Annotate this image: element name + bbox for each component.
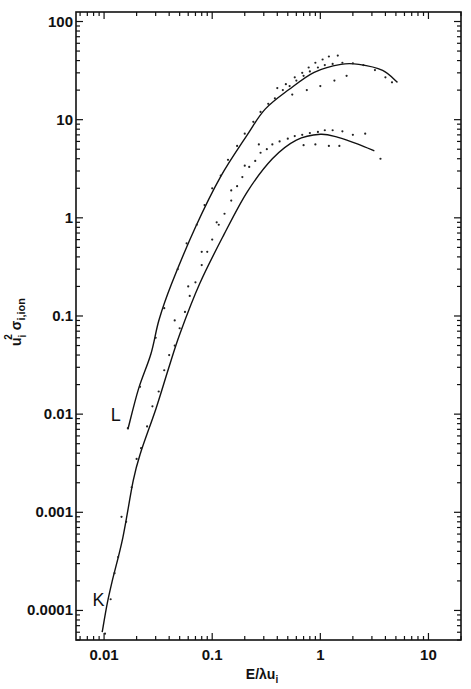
data-point bbox=[227, 159, 229, 161]
data-point bbox=[187, 285, 189, 287]
y-axis: 1001010.10.010.0010.0001 bbox=[27, 13, 461, 640]
x-tick-label: 1 bbox=[316, 646, 324, 663]
data-point bbox=[341, 62, 343, 64]
data-point bbox=[314, 62, 316, 64]
curve-label-l: L bbox=[111, 405, 121, 425]
data-point bbox=[163, 369, 165, 371]
data-point bbox=[236, 185, 238, 187]
series-l: L bbox=[111, 54, 398, 429]
data-point bbox=[346, 75, 348, 77]
data-point bbox=[285, 83, 287, 85]
data-point bbox=[230, 189, 232, 191]
data-point bbox=[391, 81, 393, 83]
data-point bbox=[211, 239, 213, 241]
data-point bbox=[271, 143, 273, 145]
data-point bbox=[306, 89, 308, 91]
data-point bbox=[282, 89, 284, 91]
data-point bbox=[308, 66, 310, 68]
data-point bbox=[139, 386, 141, 388]
data-point bbox=[211, 187, 213, 189]
data-point bbox=[295, 80, 297, 82]
data-point bbox=[362, 64, 364, 66]
data-point bbox=[155, 337, 157, 339]
x-axis: 0.010.1110 bbox=[80, 12, 461, 663]
y-tick-label: 0.1 bbox=[52, 307, 73, 324]
data-point bbox=[146, 425, 148, 427]
data-point bbox=[319, 85, 321, 87]
data-point bbox=[196, 224, 198, 226]
data-point bbox=[104, 633, 106, 635]
data-point bbox=[201, 264, 203, 266]
data-point bbox=[278, 140, 280, 142]
data-point bbox=[328, 145, 330, 147]
data-point bbox=[374, 69, 376, 71]
data-point bbox=[241, 176, 243, 178]
data-point bbox=[379, 158, 381, 160]
data-point bbox=[218, 224, 220, 226]
series-layer: LK bbox=[92, 54, 397, 634]
data-point bbox=[337, 54, 339, 56]
data-point bbox=[317, 131, 319, 133]
y-tick-label: 100 bbox=[48, 13, 73, 30]
data-point bbox=[223, 213, 225, 215]
y-tick-label: 0.001 bbox=[35, 503, 73, 520]
series-k: K bbox=[92, 129, 381, 635]
data-point bbox=[341, 130, 343, 132]
data-point bbox=[309, 132, 311, 134]
data-point bbox=[110, 598, 112, 600]
data-point bbox=[291, 94, 293, 96]
fit-curve-l bbox=[128, 63, 398, 429]
data-point bbox=[174, 319, 176, 321]
data-point bbox=[332, 129, 334, 131]
data-point bbox=[333, 80, 335, 82]
data-point bbox=[203, 204, 205, 206]
data-point bbox=[324, 129, 326, 131]
data-point bbox=[301, 134, 303, 136]
data-point bbox=[302, 75, 304, 77]
data-point bbox=[184, 311, 186, 313]
data-point bbox=[206, 251, 208, 253]
data-point bbox=[220, 174, 222, 176]
data-point bbox=[131, 486, 133, 488]
fit-curve-k bbox=[102, 134, 374, 632]
data-point bbox=[120, 516, 122, 518]
data-point bbox=[186, 242, 188, 244]
data-point bbox=[352, 134, 354, 136]
data-point bbox=[332, 63, 334, 65]
data-point bbox=[302, 144, 304, 146]
data-point bbox=[276, 87, 278, 89]
data-point bbox=[179, 327, 181, 329]
data-point bbox=[230, 199, 232, 201]
data-point bbox=[309, 70, 311, 72]
data-point bbox=[314, 143, 316, 145]
chart-svg: 0.010.1110 1001010.10.010.0010.0001 LK E… bbox=[0, 0, 471, 689]
data-point bbox=[266, 148, 268, 150]
data-point bbox=[364, 133, 366, 135]
data-point bbox=[252, 121, 254, 123]
data-point bbox=[274, 97, 276, 99]
data-point bbox=[352, 62, 354, 64]
data-point bbox=[287, 138, 289, 140]
data-point bbox=[384, 76, 386, 78]
data-point bbox=[317, 66, 319, 68]
data-point bbox=[244, 133, 246, 135]
data-point bbox=[259, 111, 261, 113]
data-point bbox=[168, 354, 170, 356]
data-point bbox=[216, 221, 218, 223]
x-tick-label: 0.1 bbox=[202, 646, 223, 663]
data-point bbox=[289, 85, 291, 87]
data-point bbox=[163, 307, 165, 309]
data-point bbox=[301, 72, 303, 74]
data-point bbox=[248, 166, 250, 168]
y-tick-label: 0.0001 bbox=[27, 601, 73, 618]
data-point bbox=[194, 281, 196, 283]
x-tick-label: 0.01 bbox=[89, 646, 118, 663]
data-point bbox=[294, 76, 296, 78]
data-point bbox=[201, 251, 203, 253]
data-point bbox=[236, 145, 238, 147]
curve-label-k: K bbox=[92, 590, 104, 610]
data-point bbox=[294, 135, 296, 137]
y-tick-label: 1 bbox=[65, 209, 73, 226]
y-axis-label: ui2σi,ion bbox=[3, 298, 28, 346]
data-point bbox=[338, 145, 340, 147]
